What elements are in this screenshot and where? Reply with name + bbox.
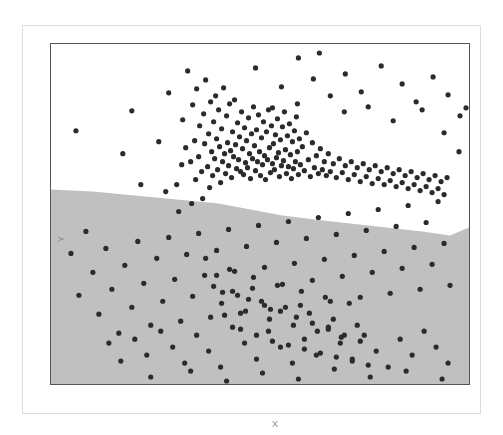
scatter-point [261,119,266,124]
scatter-point [429,262,434,267]
scatter-point [232,269,237,274]
scatter-point [248,176,253,181]
scatter-point [235,120,240,125]
scatter-point [215,167,220,172]
scatter-point [178,319,183,324]
scatter-point [264,129,269,134]
scatter-point [435,186,440,191]
scatter-point [225,140,230,145]
scatter-point [230,129,235,134]
scatter-point [320,167,325,172]
scatter-point [244,244,249,249]
scatter-point [334,354,339,359]
scatter-point [310,321,315,326]
scatter-point [243,309,248,314]
scatter-point [331,317,336,322]
scatter-point [433,345,438,350]
scatter-point [228,148,233,153]
scatter-point [288,152,293,157]
scatter-point [220,290,225,295]
scatter-point [349,159,354,164]
scatter-point [241,172,246,177]
scatter-point [233,142,238,147]
scatter-point [253,168,258,173]
scatter-point [424,220,429,225]
scatter-point [243,160,248,165]
scatter-point [386,364,391,369]
scatter-point [421,171,426,176]
scatter-point [382,182,387,187]
scatter-point [209,149,214,154]
scatter-point [445,360,450,365]
scatter-point [267,145,272,150]
scatter-point [199,169,204,174]
scatter-point [338,341,343,346]
scatter-point [68,251,73,256]
scatter-point [256,223,261,228]
scatter-point [201,111,206,116]
scatter-point [206,131,211,136]
scatter-point [217,144,222,149]
scatter-point [331,161,336,166]
scatter-point [240,146,245,151]
scatter-point [324,173,329,178]
scatter-point [294,114,299,119]
scatter-point [265,157,270,162]
scatter-point [296,172,301,177]
scatter-point [343,71,348,76]
scatter-point [224,113,229,118]
scatter-point [224,378,229,383]
scatter-point [223,171,228,176]
scatter-point [170,345,175,350]
scatter-point [299,289,304,294]
scatter-point [166,235,171,240]
scatter-point [410,352,415,357]
scatter-point [415,175,420,180]
scatter-point [306,157,311,162]
scatter-point [194,333,199,338]
scatter-point [205,164,210,169]
scatter-point [314,153,319,158]
scatter-point [308,174,313,179]
scatter-point [342,109,347,114]
scatter-point [350,358,355,363]
scatter-point [270,339,275,344]
scatter-point [190,102,195,107]
scatter-point [116,331,121,336]
scatter-point [406,203,411,208]
scatter-point [379,63,384,68]
scatter-point [445,92,450,97]
scatter-point [174,182,179,187]
scatter-point [400,180,405,185]
scatter-point [272,167,277,172]
scatter-point [418,188,423,193]
scatter-point [269,123,274,128]
scatter-point [290,360,295,365]
scatter-point [391,171,396,176]
scatter-point [304,236,309,241]
scatter-point [267,317,272,322]
scatter-point [254,127,259,132]
scatter-point [256,112,261,117]
scatter-point [218,364,223,369]
scatter-point [444,175,449,180]
scatter-point [276,150,281,155]
scatter-point [361,161,366,166]
scatter-point [202,141,207,146]
scatter-point [414,99,419,104]
scatter-point [160,299,165,304]
scatter-point [358,179,363,184]
scatter-point [315,329,320,334]
scatter-point [296,376,301,381]
scatter-point [141,281,146,286]
scatter-point [255,159,260,164]
scatter-point [237,134,242,139]
scatter-point [210,173,215,178]
scatter-point [340,274,345,279]
scatter-point [166,90,171,95]
scatter-point [296,55,301,60]
scatter-point [463,105,468,110]
scatter-point [359,89,364,94]
scatter-point [382,249,387,254]
scatter-point [250,286,255,291]
